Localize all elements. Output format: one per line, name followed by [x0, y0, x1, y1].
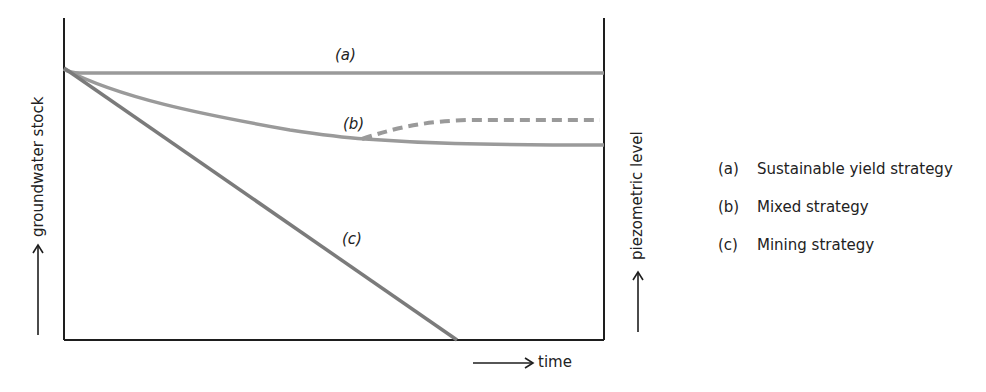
legend-text: Mixed strategy: [757, 198, 869, 216]
legend-key: (a): [718, 160, 757, 178]
legend-item-a: (a) Sustainable yield strategy: [718, 160, 953, 198]
legend-item-b: (b) Mixed strategy: [718, 198, 953, 236]
legend-key: (c): [718, 236, 757, 254]
left-axis-arrow-icon: [33, 245, 43, 335]
left-axis-label: groundwater stock: [29, 97, 47, 237]
curve-b-recovery-dashed: [362, 120, 600, 139]
legend-item-c: (c) Mining strategy: [718, 236, 953, 274]
legend-text: Mining strategy: [757, 236, 874, 254]
time-arrow-icon: [473, 358, 533, 368]
legend-text: Sustainable yield strategy: [757, 160, 953, 178]
curve-c-mining: [64, 68, 457, 340]
curve-b-mixed: [64, 69, 604, 145]
curve-a-sustainable-yield: [64, 69, 604, 73]
curve-a-label: (a): [335, 46, 356, 64]
legend-key: (b): [718, 198, 757, 216]
curve-c-label: (c): [342, 230, 362, 248]
legend: (a) Sustainable yield strategy (b) Mixed…: [718, 160, 953, 274]
right-axis-label: piezometric level: [628, 131, 646, 260]
curve-b-label: (b): [343, 115, 364, 133]
x-axis-label: time: [538, 353, 572, 371]
right-axis-arrow-icon: [633, 272, 643, 332]
axes: [64, 18, 604, 340]
